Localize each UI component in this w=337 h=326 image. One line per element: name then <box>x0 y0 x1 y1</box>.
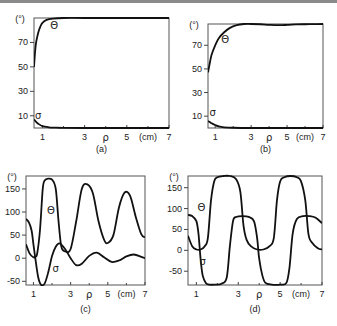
panel-c-ytick-label: -50 <box>7 276 20 286</box>
panel-d-xtick-label: 5 <box>278 289 283 299</box>
panel-d-ylabel: (°) <box>169 172 179 182</box>
panel-c-xtick-label: 5 <box>105 289 110 299</box>
panel-b-xlabel-symbol: ρ <box>266 132 272 143</box>
panel-b-ytick-label: 50 <box>192 64 202 74</box>
panel-c-ytick-label: 50 <box>10 230 20 240</box>
panel-a-ytick-label: 30 <box>18 86 28 96</box>
panel-c-xtick-label: 7 <box>142 289 147 299</box>
panel-b-annotation-sigma: σ <box>209 107 216 118</box>
panel-a-xtick-label: 7 <box>166 132 171 142</box>
panel-b-ylabel: (°) <box>189 20 199 30</box>
panel-a-xlabel-symbol: ρ <box>103 132 109 143</box>
panel-c-annotation-theta: Θ <box>47 205 55 216</box>
panel-d-ytick-label: 0 <box>177 245 182 255</box>
panel-d-ytick-label: 150 <box>167 183 182 193</box>
panel-b-xtick-label: 3 <box>249 132 254 142</box>
panel-c-ytick-label: 100 <box>5 207 20 217</box>
panel-d-ytick-label: 100 <box>167 204 182 214</box>
panel-a-xtick-label: 3 <box>82 132 87 142</box>
panel-a-xtick-label: 1 <box>40 132 45 142</box>
panel-c-xunit: (cm) <box>117 289 135 299</box>
panel-c-ytick-label: 150 <box>5 184 20 194</box>
panel-b-xunit: (cm) <box>296 132 314 142</box>
panel-a-ylabel: (°) <box>15 14 25 24</box>
panel-d-series-sigma <box>188 215 322 285</box>
panel-a-ytick-label: 50 <box>18 62 28 72</box>
panel-b-series-theta <box>208 24 323 73</box>
panel-a-frame <box>34 18 169 128</box>
panel-b-xtick-label: 1 <box>213 132 218 142</box>
panel-c-ylabel: (°) <box>7 172 17 182</box>
panel-d-xunit: (cm) <box>292 289 310 299</box>
figure: 10305070(°)1357ρ(cm)(a)Θσ10305070(°)1357… <box>0 0 337 326</box>
panel-c-caption: (c) <box>80 304 91 314</box>
panel-c-xtick-label: 1 <box>31 289 36 299</box>
panel-d-ytick-label: -50 <box>169 266 182 276</box>
panel-c-ytick-label: 0 <box>15 253 20 263</box>
panel-b-xtick-label: 7 <box>320 132 325 142</box>
panel-b-annotation-theta: Θ <box>221 34 229 45</box>
panel-a-xunit: (cm) <box>139 132 157 142</box>
panel-d-annotation-sigma: σ <box>200 256 207 267</box>
panel-c-annotation-sigma: σ <box>53 263 60 274</box>
panel-d-xtick-label: 1 <box>194 289 199 299</box>
panel-d-annotation-theta: Θ <box>197 202 205 213</box>
panel-a-xtick-label: 5 <box>124 132 129 142</box>
panel-b-ytick-label: 10 <box>192 111 202 121</box>
panel-b-ytick-label: 70 <box>192 40 202 50</box>
panel-a-series-sigma <box>34 119 169 128</box>
panel-d-xtick-label: 7 <box>319 289 324 299</box>
panel-d-xtick-label: 3 <box>236 289 241 299</box>
panel-a-annotation-sigma: σ <box>35 110 42 121</box>
panel-b-xtick-label: 5 <box>285 132 290 142</box>
panel-b-ytick-label: 30 <box>192 88 202 98</box>
panel-b-series-sigma <box>208 121 323 128</box>
panel-c-xlabel-symbol: ρ <box>86 289 92 300</box>
panel-a-caption: (a) <box>96 144 107 154</box>
panel-b-caption: (b) <box>260 144 271 154</box>
panel-a-ytick-label: 70 <box>18 37 28 47</box>
panel-c-series-theta <box>26 179 145 258</box>
panel-a-ytick-label: 10 <box>18 111 28 121</box>
panel-a-annotation-theta: Θ <box>50 20 58 31</box>
panel-c-xtick-label: 3 <box>68 289 73 299</box>
panel-d-ytick-label: 50 <box>172 224 182 234</box>
panel-d-series-theta <box>188 176 322 250</box>
panel-d-xlabel-symbol: ρ <box>256 289 262 300</box>
panel-d-caption: (d) <box>250 304 261 314</box>
panel-c-series-sigma <box>26 219 145 285</box>
